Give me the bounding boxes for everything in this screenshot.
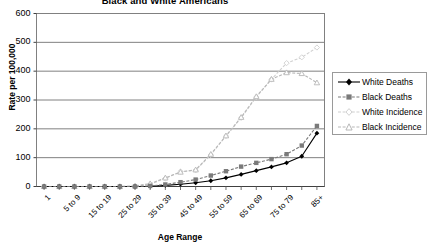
data-point-marker (269, 157, 273, 161)
legend-label-black-deaths: Black Deaths (362, 91, 412, 103)
data-point-marker (133, 184, 137, 188)
legend-item-black-deaths: Black Deaths (336, 90, 426, 104)
legend-item-white-incidence: White Incidence (336, 105, 426, 119)
data-point-marker (254, 161, 258, 165)
legend-label-white-deaths: White Deaths (362, 76, 413, 88)
legend-label-black-incidence: Black Incidence (362, 121, 422, 133)
chart-legend: White Deaths Black Deaths White Incidenc… (332, 72, 427, 135)
data-point-marker (148, 184, 152, 188)
data-point-marker (42, 184, 46, 188)
data-point-marker (163, 182, 167, 186)
data-point-marker (178, 180, 182, 184)
data-point-marker (300, 143, 304, 147)
data-point-marker (72, 184, 76, 188)
data-point-marker (284, 152, 288, 156)
data-point-marker (57, 184, 61, 188)
data-point-marker (193, 177, 197, 181)
data-point-marker (315, 124, 319, 128)
data-point-marker (224, 169, 228, 173)
data-point-marker (209, 173, 213, 177)
legend-label-white-incidence: White Incidence (362, 106, 422, 118)
data-point-marker (103, 184, 107, 188)
data-point-marker (118, 184, 122, 188)
legend-item-white-deaths: White Deaths (336, 75, 426, 89)
chart-container: Black and White Americans Rate per 100,0… (0, 0, 429, 246)
legend-swatch-white-deaths (337, 75, 361, 89)
data-point-marker (239, 164, 243, 168)
legend-swatch-black-incidence (337, 120, 361, 134)
data-point-marker (87, 184, 91, 188)
legend-item-black-incidence: Black Incidence (336, 120, 426, 134)
legend-swatch-white-incidence (337, 105, 361, 119)
legend-swatch-black-deaths (337, 90, 361, 104)
